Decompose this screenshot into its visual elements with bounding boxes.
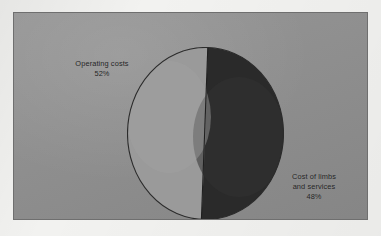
pie-label-operating-costs-value: 52% <box>62 69 142 79</box>
pie-label-cost-of-limbs-and-services: Cost of limbs and services 48% <box>272 172 356 202</box>
chart-panel: Operating costs 52% Cost of limbs and se… <box>13 12 368 220</box>
pie-label-cost-value: 48% <box>272 192 356 202</box>
pie-chart-figure: Operating costs 52% Cost of limbs and se… <box>0 0 381 236</box>
pie-label-operating-costs: Operating costs 52% <box>62 59 142 79</box>
pie-label-cost-line2: and services <box>272 182 356 192</box>
pie-svg <box>127 47 284 220</box>
pie-chart <box>127 47 284 220</box>
pie-label-operating-costs-name: Operating costs <box>62 59 142 69</box>
pie-label-cost-line1: Cost of limbs <box>272 172 356 182</box>
